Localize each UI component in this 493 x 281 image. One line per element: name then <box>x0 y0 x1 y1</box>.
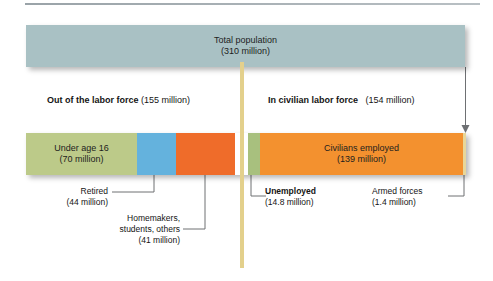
labor-force-divider <box>240 62 244 268</box>
under-age-16-label: Under age 16 <box>54 143 109 154</box>
callout-homemakers: Homemakers, students, others (41 million… <box>58 213 180 246</box>
segment-retired <box>137 133 176 175</box>
unemployed-label: Unemployed <box>265 186 316 196</box>
unemployed-value: (14.8 million) <box>265 197 365 208</box>
callout-retired: Retired (44 million) <box>30 186 108 208</box>
total-population-label: Total population <box>214 35 277 46</box>
segment-under-age-16: Under age 16 (70 million) <box>26 133 137 175</box>
callout-unemployed: Unemployed (14.8 million) <box>265 186 365 208</box>
armed-forces-value: (1.4 million) <box>372 197 452 208</box>
civilians-employed-label: Civilians employed <box>324 143 399 154</box>
segment-homemakers-students-others <box>176 133 235 175</box>
total-population-bar: Total population (310 million) <box>26 25 465 67</box>
segment-civilians-employed: Civilians employed (139 million) <box>260 133 463 175</box>
in-civilian-labor-force-heading: In civilian labor force (154 million) <box>268 95 415 105</box>
armed-forces-label: Armed forces <box>372 186 452 197</box>
callout-armed-forces: Armed forces (1.4 million) <box>372 186 452 208</box>
out-of-labor-force-label: Out of the labor force <box>47 95 139 105</box>
civilians-employed-value: (139 million) <box>337 154 386 165</box>
homemakers-label-2: students, others <box>58 224 180 235</box>
in-civilian-labor-force-label: In civilian labor force <box>268 95 358 105</box>
out-of-labor-force-value: (155 million) <box>141 95 190 105</box>
homemakers-label: Homemakers, <box>58 213 180 224</box>
retired-label: Retired <box>30 186 108 197</box>
population-breakdown-bar: Under age 16 (70 million) Civilians empl… <box>26 133 466 175</box>
retired-value: (44 million) <box>30 197 108 208</box>
homemakers-value: (41 million) <box>58 235 180 246</box>
in-civilian-labor-force-value: (154 million) <box>366 95 415 105</box>
diagram-canvas: Total population (310 million) Out of th… <box>0 0 493 281</box>
out-of-labor-force-heading: Out of the labor force (155 million) <box>47 95 190 105</box>
segment-unemployed <box>248 133 260 175</box>
total-population-value: (310 million) <box>221 46 270 57</box>
segment-armed-forces <box>463 133 466 175</box>
under-age-16-value: (70 million) <box>59 154 103 165</box>
